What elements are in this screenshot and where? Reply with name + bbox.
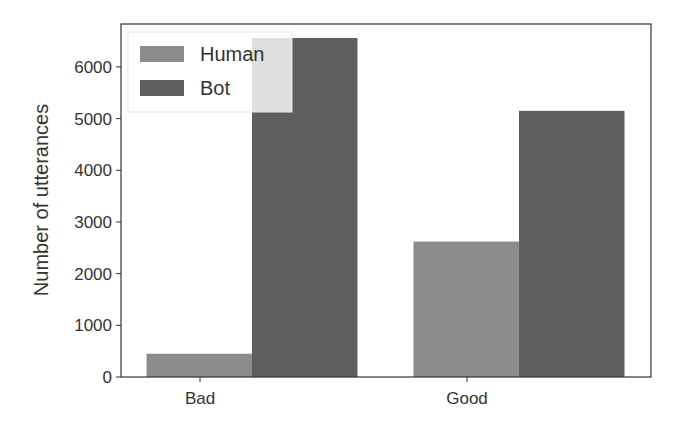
- x-tick-label-bad: Bad: [185, 389, 215, 408]
- y-tick-label: 0: [103, 368, 112, 387]
- x-tick-label-good: Good: [446, 389, 488, 408]
- y-tick-label: 2000: [74, 265, 112, 284]
- y-tick-label: 1000: [74, 316, 112, 335]
- y-tick-label: 4000: [74, 161, 112, 180]
- legend-label-bot: Bot: [200, 77, 230, 99]
- legend-swatch-bot: [140, 80, 184, 96]
- y-tick-label: 6000: [74, 58, 112, 77]
- bar-bot-good: [519, 111, 625, 377]
- bar-human-bad: [147, 354, 253, 377]
- legend-label-human: Human: [200, 43, 264, 65]
- y-tick-label: 5000: [74, 110, 112, 129]
- y-axis-label: Number of utterances: [30, 104, 52, 296]
- y-tick-label: 3000: [74, 213, 112, 232]
- x-axis: BadGood: [185, 377, 488, 408]
- legend-swatch-human: [140, 46, 184, 62]
- bar-chart: HumanBot 0100020003000400050006000 BadGo…: [0, 0, 681, 430]
- y-axis: 0100020003000400050006000: [74, 58, 121, 387]
- bar-human-good: [414, 242, 520, 377]
